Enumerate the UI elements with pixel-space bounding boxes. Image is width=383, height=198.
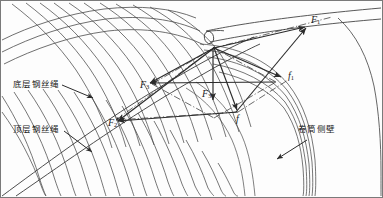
label-force-F3-center: F3 bbox=[202, 88, 211, 99]
force-diagram-svg bbox=[0, 0, 383, 198]
label-force-F3-left: F3 bbox=[140, 79, 149, 90]
label-force-f1-sub: 1 bbox=[291, 74, 294, 81]
figure-canvas: 底层钢丝绳 顶层钢丝绳 卷筒侧壁 F1 F3 F2 F3 f f1 bbox=[0, 0, 383, 198]
label-force-f1: f1 bbox=[288, 70, 294, 81]
label-force-F1-sub: 1 bbox=[317, 18, 320, 25]
label-force-F3-center-sub: 3 bbox=[208, 92, 211, 99]
label-force-f: f bbox=[236, 113, 239, 124]
label-force-F2: F2 bbox=[108, 117, 117, 128]
label-force-F3-left-sub: 3 bbox=[146, 83, 149, 90]
force-origin-point bbox=[213, 47, 216, 50]
label-force-F1: F1 bbox=[311, 14, 320, 25]
label-drum-side-wall: 卷筒侧壁 bbox=[298, 122, 335, 134]
label-top-layer-rope: 顶层钢丝绳 bbox=[13, 122, 60, 134]
label-force-F2-sub: 2 bbox=[114, 121, 117, 128]
label-bottom-layer-rope: 底层钢丝绳 bbox=[13, 77, 60, 89]
